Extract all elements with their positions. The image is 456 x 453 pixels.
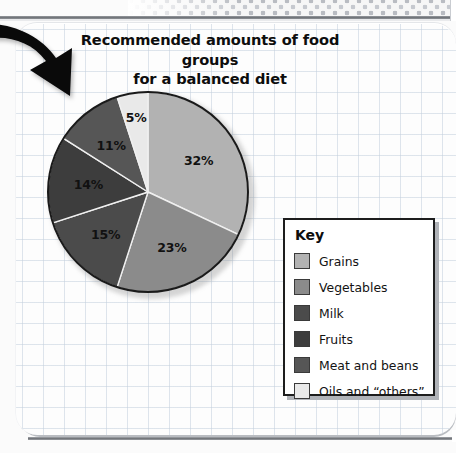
pie-chart: 32%23%15%14%11%5% bbox=[44, 88, 260, 304]
pie-slice-label: 11% bbox=[97, 137, 126, 152]
bottom-divider-rule bbox=[28, 437, 456, 440]
legend-item: Fruits bbox=[294, 326, 430, 352]
legend-swatch bbox=[294, 383, 310, 399]
page-title-line-1: Recommended amounts of food groups bbox=[55, 30, 365, 69]
pie-slices bbox=[44, 88, 260, 304]
pie-slice-label: 23% bbox=[157, 240, 186, 255]
page-title: Recommended amounts of food groups for a… bbox=[55, 30, 365, 89]
pie-slice-label: 14% bbox=[74, 177, 103, 192]
legend-item: Oils and “others” bbox=[294, 378, 430, 404]
legend-item-label: Vegetables bbox=[319, 280, 387, 295]
legend-item-label: Grains bbox=[319, 254, 359, 269]
top-right-edge-tick bbox=[450, 0, 456, 21]
legend-swatch bbox=[294, 331, 310, 347]
page-title-line-2: for a balanced diet bbox=[55, 69, 365, 89]
legend-item: Milk bbox=[294, 300, 430, 326]
legend-item: Meat and beans bbox=[294, 352, 430, 378]
pie-slice-label: 5% bbox=[126, 109, 147, 124]
legend-swatch bbox=[294, 357, 310, 373]
legend-item: Vegetables bbox=[294, 274, 430, 300]
legend-box: Key GrainsVegetablesMilkFruitsMeat and b… bbox=[283, 218, 435, 396]
legend-item-label: Oils and “others” bbox=[319, 384, 425, 399]
legend-item-label: Fruits bbox=[319, 332, 353, 347]
legend-swatch bbox=[294, 253, 310, 269]
legend-heading: Key bbox=[295, 227, 324, 243]
legend-item-label: Meat and beans bbox=[319, 358, 418, 373]
worksheet-page: Recommended amounts of food groups for a… bbox=[0, 0, 456, 453]
pie-slice-label: 15% bbox=[91, 227, 120, 242]
legend-swatch bbox=[294, 279, 310, 295]
legend-item-label: Milk bbox=[319, 306, 344, 321]
legend-item-list: GrainsVegetablesMilkFruitsMeat and beans… bbox=[294, 248, 430, 404]
legend-item: Grains bbox=[294, 248, 430, 274]
legend-swatch bbox=[294, 305, 310, 321]
bottom-right-edge-tick bbox=[452, 430, 456, 442]
pie-slice-label: 32% bbox=[184, 152, 213, 167]
halftone-fade bbox=[128, 0, 456, 16]
